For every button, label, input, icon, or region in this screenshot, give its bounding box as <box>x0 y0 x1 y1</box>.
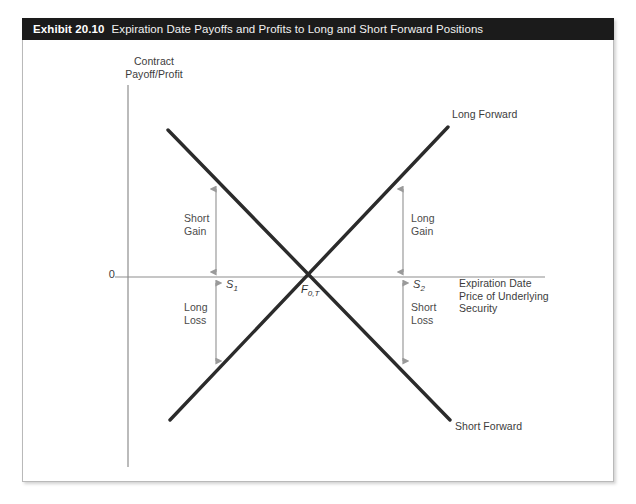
x-axis-label: Expiration Date Price of Underlying Secu… <box>459 277 579 315</box>
long-forward-label: Long Forward <box>452 108 517 121</box>
exhibit-frame <box>22 18 614 482</box>
forward-price-label: F0,T <box>301 283 319 301</box>
origin-label: 0 <box>99 268 115 281</box>
y-axis-label: Contract Payoff/Profit <box>99 55 209 80</box>
exhibit-page: Exhibit 20.10 Expiration Date Payoffs an… <box>0 0 636 504</box>
forward-price-symbol: F <box>301 283 308 295</box>
exhibit-header: Exhibit 20.10 Expiration Date Payoffs an… <box>22 18 614 40</box>
forward-price-subscript: 0,T <box>308 289 320 298</box>
s1-subscript: 1 <box>233 284 237 293</box>
exhibit-number: Exhibit 20.10 <box>33 23 105 35</box>
s2-label: S2 <box>413 278 425 296</box>
exhibit-title: Expiration Date Payoffs and Profits to L… <box>112 23 484 35</box>
short-forward-label: Short Forward <box>455 420 522 433</box>
short-loss-label: Short Loss <box>411 301 436 326</box>
s2-subscript: 2 <box>420 284 424 293</box>
short-gain-label: Short Gain <box>184 212 209 237</box>
long-loss-label: Long Loss <box>184 301 208 326</box>
long-gain-label: Long Gain <box>411 212 435 237</box>
s1-label: S1 <box>226 278 238 296</box>
